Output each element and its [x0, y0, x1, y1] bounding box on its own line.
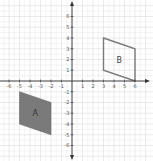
y-tick-label: -5 [65, 132, 70, 138]
shape-a-label: A [33, 109, 39, 118]
y-tick-label: 5 [66, 24, 69, 30]
x-axis-arrow-icon [145, 79, 150, 83]
y-tick-label: 2 [66, 56, 69, 62]
x-tick-label: -1 [59, 83, 64, 89]
grid-lines [0, 0, 153, 161]
coordinate-plane: A B -6-5-4-3-2-1123456654321-1-2-3-4-5-6 [0, 0, 153, 161]
x-tick-label: 3 [102, 83, 105, 89]
x-tick-label: 6 [133, 83, 136, 89]
y-tick-label: 4 [66, 35, 69, 41]
y-tick-label: -6 [65, 142, 70, 148]
y-tick-label: 3 [66, 46, 69, 52]
y-tick-label: -1 [65, 89, 70, 95]
y-tick-label: 1 [66, 67, 69, 73]
x-tick-label: 4 [112, 83, 115, 89]
y-tick-label: -3 [65, 110, 70, 116]
y-axis-arrow-down-icon [70, 155, 74, 160]
x-tick-label: -3 [38, 83, 43, 89]
axes [0, 1, 150, 160]
y-tick-label: -2 [65, 99, 70, 105]
x-tick-label: 5 [123, 83, 126, 89]
y-tick-label: -4 [65, 121, 70, 127]
x-tick-label: -6 [7, 83, 12, 89]
x-tick-label: -5 [17, 83, 22, 89]
shape-b-label: B [117, 56, 123, 65]
x-tick-label: -2 [49, 83, 54, 89]
x-tick-label: 1 [81, 83, 84, 89]
y-axis-arrow-up-icon [70, 1, 74, 6]
y-tick-label: 6 [66, 13, 69, 19]
x-tick-label: 2 [91, 83, 94, 89]
x-tick-label: -4 [28, 83, 33, 89]
